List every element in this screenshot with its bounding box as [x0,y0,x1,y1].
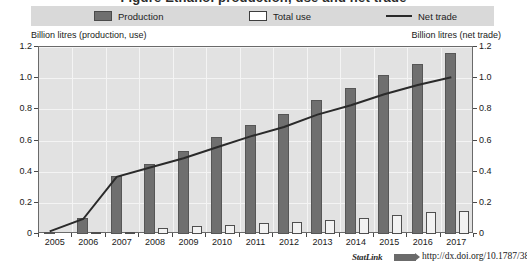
y-axis-tick-mark [34,171,38,172]
x-axis-tick-mark [172,233,173,237]
gridline-vertical [374,47,375,232]
bar-production [278,114,289,234]
y-axis-tick-mark [473,77,477,78]
x-axis-tick-mark [71,233,72,237]
x-axis-tick-mark [306,233,307,237]
x-axis-tick-label: 2017 [436,238,476,247]
gridline-vertical [240,47,241,232]
bar-production [111,176,122,234]
gridline-vertical [72,47,73,232]
y-axis-tick-label-right: 0.2 [479,198,505,207]
bar-production [77,218,88,234]
gridline-vertical [407,47,408,232]
y-axis-tick-mark [34,202,38,203]
bar-production [345,88,356,234]
gridline-vertical [106,47,107,232]
gridline-vertical [340,47,341,232]
y-axis-tick-mark [473,202,477,203]
bar-total-use [426,212,436,234]
gridline-vertical [173,47,174,232]
legend-label-production: Production [118,11,163,22]
y-axis-tick-label-left: 0.6 [8,136,32,145]
figure-footer: StatLink http://dx.doi.org/10.1787/38205… [0,251,527,271]
x-axis-tick-mark [38,233,39,237]
statlink-label: StatLink [352,252,382,262]
x-axis-tick-mark [440,233,441,237]
legend-item-total-use: Total use [249,6,311,26]
figure-title-cropped: Figure Ethanol production, use and net t… [0,0,527,5]
total-use-swatch-icon [249,11,267,21]
y-axis-tick-mark [34,108,38,109]
bar-total-use [392,215,402,234]
bar-total-use [225,225,235,234]
x-axis-tick-mark [406,233,407,237]
bar-production [245,125,256,234]
bar-total-use [459,211,469,234]
bar-total-use [125,232,135,234]
bar-production [412,64,423,234]
y-axis-tick-mark [473,171,477,172]
chart-legend: Production Total use Net trade [31,6,494,26]
statlink-glyph-icon [394,254,416,261]
x-axis-tick-mark [339,233,340,237]
gridline-vertical [273,47,274,232]
y-axis-tick-mark [34,77,38,78]
y-axis-tick-label-right: 0.6 [479,136,505,145]
y-axis-tick-label-left: 0.2 [8,198,32,207]
y-axis-tick-label-right: 1.0 [479,73,505,82]
y-axis-tick-label-left: 0 [8,229,32,238]
y-axis-tick-label-left: 1.2 [8,42,32,51]
y-axis-tick-label-left: 0.8 [8,104,32,113]
legend-item-net-trade: Net trade [386,6,457,26]
production-swatch-icon [94,11,112,21]
y-axis-tick-mark [34,46,38,47]
y-axis-tick-mark [473,140,477,141]
y-axis-tick-label-right: 0.8 [479,104,505,113]
bar-total-use [292,222,302,234]
bar-production [445,53,456,234]
bar-total-use [158,228,168,234]
chart-figure: Figure Ethanol production, use and net t… [0,0,527,271]
bar-production [211,137,222,234]
x-axis-tick-mark [272,233,273,237]
x-axis-tick-mark [373,233,374,237]
y-axis-tick-mark [473,108,477,109]
gridline-vertical [139,47,140,232]
y-axis-tick-label-right: 0 [479,229,505,238]
bar-total-use [259,223,269,234]
x-axis-tick-mark [473,233,474,237]
left-axis-caption: Billion litres (production, use) [31,30,147,40]
plot-area [38,46,473,233]
bar-total-use [192,226,202,234]
figure-title-text: Figure Ethanol production, use and net t… [0,0,527,4]
net-trade-line-icon [386,15,412,17]
x-axis-tick-mark [138,233,139,237]
bar-total-use [325,220,335,234]
gridline-vertical [307,47,308,232]
gridline-vertical [441,47,442,232]
y-axis-tick-label-right: 0.4 [479,167,505,176]
bar-total-use [359,218,369,234]
y-axis-tick-label-right: 1.2 [479,42,505,51]
y-axis-tick-mark [34,140,38,141]
x-axis-tick-mark [205,233,206,237]
statlink-url[interactable]: http://dx.doi.org/10.1787/382057482765 [422,251,527,261]
legend-item-production: Production [94,6,163,26]
y-axis-tick-label-left: 0.4 [8,167,32,176]
bar-production [311,100,322,234]
y-axis-tick-mark [473,46,477,47]
bar-production [178,151,189,234]
gridline-vertical [206,47,207,232]
x-axis-tick-mark [105,233,106,237]
legend-label-net-trade: Net trade [418,11,457,22]
y-axis-tick-label-left: 1.0 [8,73,32,82]
bar-production [378,75,389,234]
bar-production [144,164,155,234]
legend-label-total-use: Total use [273,11,311,22]
right-axis-caption: Billion litres (net trade) [411,30,501,40]
bar-production [44,232,55,234]
x-axis-tick-mark [239,233,240,237]
bar-total-use [91,232,101,234]
